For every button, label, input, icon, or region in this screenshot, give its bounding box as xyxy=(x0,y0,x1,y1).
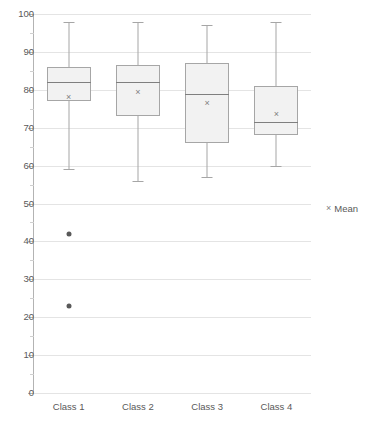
x-axis-category-label: Class 4 xyxy=(242,401,311,412)
y-axis-tick-label: 80 xyxy=(8,85,34,95)
x-axis-category-label: Class 1 xyxy=(34,401,103,412)
y-axis-tick-label: 0 xyxy=(8,388,34,398)
box-plot-series: × xyxy=(103,14,172,393)
whisker-lower xyxy=(137,116,138,180)
y-axis-tick-group: 0102030405060708090100 xyxy=(0,0,34,428)
y-axis-tick-label: 30 xyxy=(8,275,34,285)
whisker-upper xyxy=(207,25,208,63)
y-axis-tick-label: 40 xyxy=(8,237,34,247)
y-axis-tick-label: 10 xyxy=(8,350,34,360)
mean-marker-x-icon: × xyxy=(66,93,71,102)
whisker-cap-lower xyxy=(202,177,213,178)
plot-area: ×××× xyxy=(34,14,311,393)
median-line xyxy=(254,122,298,123)
whisker-cap-upper xyxy=(202,25,213,26)
median-line xyxy=(116,82,160,83)
whisker-cap-lower xyxy=(271,166,282,167)
x-marker-icon: × xyxy=(326,204,331,213)
whisker-upper xyxy=(68,22,69,67)
box-plot-series: × xyxy=(173,14,242,393)
mean-marker-x-icon: × xyxy=(135,87,140,96)
gridline xyxy=(34,393,311,394)
box-plot-chart: 0102030405060708090100 ×××× Class 1Class… xyxy=(0,0,372,428)
whisker-cap-upper xyxy=(271,22,282,23)
y-axis-tick-label: 20 xyxy=(8,312,34,322)
y-axis-tick-label: 100 xyxy=(8,9,34,19)
y-axis-tick-label: 70 xyxy=(8,123,34,133)
y-axis-tick-label: 50 xyxy=(8,199,34,209)
whisker-cap-upper xyxy=(132,22,143,23)
whisker-lower xyxy=(68,101,69,169)
legend: × Mean xyxy=(326,203,358,214)
whisker-upper xyxy=(276,22,277,86)
y-axis-tick-label: 60 xyxy=(8,161,34,171)
x-axis-category-label: Class 3 xyxy=(173,401,242,412)
box-plot-series: × xyxy=(34,14,103,393)
whisker-cap-lower xyxy=(63,169,74,170)
outlier-point xyxy=(66,231,71,236)
median-line xyxy=(185,94,229,95)
whisker-upper xyxy=(137,22,138,66)
y-axis-tick-label: 90 xyxy=(8,47,34,57)
legend-label-mean: Mean xyxy=(334,203,358,214)
mean-marker-x-icon: × xyxy=(204,99,209,108)
mean-marker-x-icon: × xyxy=(274,110,279,119)
whisker-lower xyxy=(207,143,208,177)
whisker-cap-lower xyxy=(132,181,143,182)
whisker-lower xyxy=(276,135,277,165)
x-axis-category-label: Class 2 xyxy=(103,401,172,412)
median-line xyxy=(47,82,91,83)
outlier-point xyxy=(66,303,71,308)
whisker-cap-upper xyxy=(63,22,74,23)
box-plot-series: × xyxy=(242,14,311,393)
